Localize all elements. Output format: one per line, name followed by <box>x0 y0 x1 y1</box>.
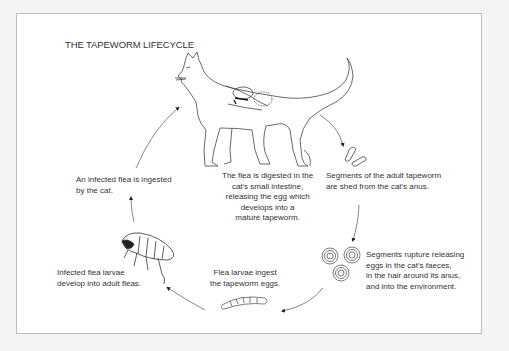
arrow-flea-to-cat <box>131 198 134 222</box>
caption-segments-rupture: Segments rupture releasing eggs in the c… <box>366 250 464 292</box>
arrow-segments-to-eggs <box>353 205 359 240</box>
flea-larva-icon <box>221 297 267 309</box>
arrow-cat-ingests <box>136 108 178 168</box>
caption-line: develops into a <box>222 203 313 214</box>
caption-line: Segments rupture releasing <box>366 250 464 261</box>
caption-segments-shed: Segments of the adult tapeworm are shed … <box>326 171 441 192</box>
caption-line: in the hair around its anus, <box>366 271 464 282</box>
caption-line: The flea is digested in the <box>222 171 313 182</box>
caption-line: eggs in the cat's faeces, <box>366 261 464 272</box>
caption-line: are shed from the cat's anus. <box>326 182 441 193</box>
tapeworm-segment-icon <box>345 147 366 166</box>
caption-line: Segments of the adult tapeworm <box>326 171 441 182</box>
caption-cat-digestion: The flea is digested in the cat's small … <box>222 171 313 224</box>
arrow-larvae-to-flea <box>168 288 205 310</box>
arrow-eggs-to-larvae <box>283 288 323 311</box>
caption-line: develop into adult fleas. <box>57 279 141 290</box>
caption-line: cat's small intestine, <box>222 182 313 193</box>
caption-larvae-develop: Infected flea larvae develop into adult … <box>57 268 141 289</box>
arrow-cat-to-segments <box>320 115 343 145</box>
cat-icon <box>175 52 353 166</box>
caption-larvae-ingest: Flea larvae ingest the tapeworm eggs. <box>210 268 280 289</box>
caption-line: Infected flea larvae <box>57 268 141 279</box>
caption-line: by the cat. <box>76 186 172 197</box>
caption-line: releasing the egg which <box>222 192 313 203</box>
caption-flea-ingested: An infected flea is ingested by the cat. <box>76 175 172 196</box>
caption-line: and into the environment. <box>366 282 464 293</box>
caption-line: Flea larvae ingest <box>210 268 280 279</box>
caption-line: the tapeworm eggs. <box>210 279 280 290</box>
caption-line: An infected flea is ingested <box>76 175 172 186</box>
caption-line: mature tapeworm. <box>222 213 313 224</box>
egg-cluster-icon <box>322 247 360 281</box>
